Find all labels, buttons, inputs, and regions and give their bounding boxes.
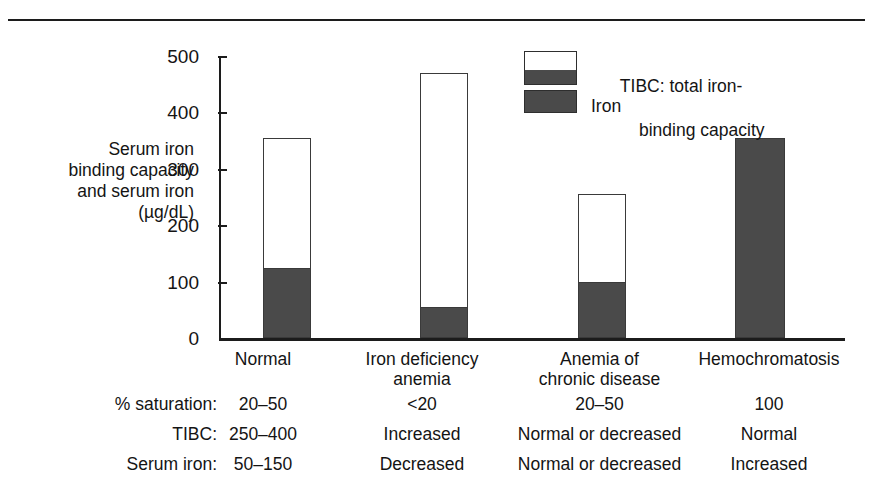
- x-axis-line: [219, 338, 845, 341]
- category-label-normal-line1: Normal: [203, 349, 323, 369]
- table-cell-serum-iron-iron-deficiency: Decreased: [357, 454, 487, 474]
- table-cell-tibc-hemochromatosis: Normal: [679, 424, 859, 444]
- y-axis-title: Serum iron binding capacity and serum ir…: [8, 139, 194, 223]
- legend-swatch-tibc-fill: [525, 70, 576, 84]
- table-cell-serum-iron-normal: 50–150: [203, 454, 323, 474]
- category-label-anemia-chronic-disease-line1: Anemia of: [527, 349, 672, 369]
- y-tick-200: [218, 225, 227, 227]
- y-tick-label-200: 200: [119, 216, 199, 235]
- y-axis-title-line-3: and serum iron: [8, 181, 194, 202]
- y-tick-400: [218, 112, 227, 114]
- bar-iron-deficiency-anemia[interactable]: [420, 56, 468, 338]
- bar-iron-deficiency-anemia-tibc: [420, 73, 468, 338]
- y-tick-label-500: 500: [119, 47, 199, 66]
- category-label-hemochromatosis-line1: Hemochromatosis: [679, 349, 859, 369]
- y-tick-label-400: 400: [119, 103, 199, 122]
- category-label-anemia-chronic-disease: Anemia of chronic disease: [527, 349, 672, 389]
- legend-label-tibc-line1: TIBC: total iron-: [620, 76, 743, 96]
- bar-normal-iron: [263, 268, 311, 339]
- table-row-saturation: % saturation: 20–50 <20 20–50 100: [0, 394, 871, 424]
- table-row-label-saturation: % saturation:: [35, 394, 217, 414]
- category-label-iron-deficiency-anemia: Iron deficiency anemia: [357, 349, 487, 389]
- y-axis-line: [219, 56, 221, 338]
- table-cell-tibc-normal: 250–400: [203, 424, 323, 444]
- legend-label-iron: Iron: [591, 95, 621, 117]
- category-label-iron-deficiency-anemia-line1: Iron deficiency: [357, 349, 487, 369]
- table-cell-tibc-iron-deficiency: Increased: [357, 424, 487, 444]
- category-label-iron-deficiency-anemia-line2: anemia: [357, 369, 487, 389]
- category-label-hemochromatosis: Hemochromatosis: [679, 349, 859, 369]
- table-row-tibc: TIBC: 250–400 Increased Normal or decrea…: [0, 424, 871, 454]
- summary-table: % saturation: 20–50 <20 20–50 100 TIBC: …: [0, 394, 871, 484]
- table-row-label-tibc: TIBC:: [35, 424, 217, 444]
- category-label-anemia-chronic-disease-line2: chronic disease: [527, 369, 672, 389]
- table-cell-tibc-anemia-chronic: Normal or decreased: [517, 424, 682, 444]
- legend-swatch-tibc: [524, 51, 577, 85]
- bar-anemia-chronic-disease-iron: [578, 282, 626, 338]
- y-tick-label-100: 100: [119, 273, 199, 292]
- legend-label-tibc: TIBC: total iron- binding capacity: [591, 53, 765, 185]
- bar-normal[interactable]: [263, 56, 311, 338]
- y-tick-500: [218, 56, 227, 58]
- y-tick-label-0: 0: [119, 329, 199, 348]
- table-row-serum-iron: Serum iron: 50–150 Decreased Normal or d…: [0, 454, 871, 484]
- y-tick-100: [218, 282, 227, 284]
- y-tick-300: [218, 169, 227, 171]
- table-cell-saturation-hemochromatosis: 100: [679, 394, 859, 414]
- legend-label-tibc-line2: binding capacity: [591, 119, 765, 141]
- table-cell-serum-iron-hemochromatosis: Increased: [679, 454, 859, 474]
- top-divider-rule: [8, 19, 865, 21]
- figure-root: Serum iron binding capacity and serum ir…: [0, 0, 871, 485]
- table-cell-saturation-normal: 20–50: [203, 394, 323, 414]
- table-cell-serum-iron-anemia-chronic: Normal or decreased: [517, 454, 682, 474]
- category-label-normal: Normal: [203, 349, 323, 369]
- y-axis-title-line-1: Serum iron: [8, 139, 194, 160]
- table-cell-saturation-iron-deficiency: <20: [357, 394, 487, 414]
- legend-swatch-iron: [524, 90, 577, 113]
- table-row-label-serum-iron: Serum iron:: [35, 454, 217, 474]
- bar-iron-deficiency-anemia-iron: [420, 307, 468, 338]
- y-tick-label-300: 300: [119, 160, 199, 179]
- table-cell-saturation-anemia-chronic: 20–50: [517, 394, 682, 414]
